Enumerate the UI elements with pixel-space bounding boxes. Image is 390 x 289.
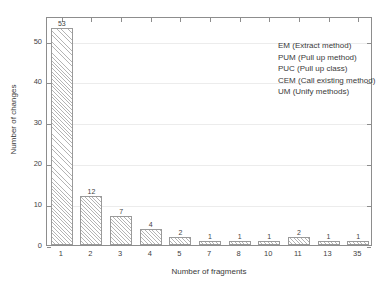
y-tick-mark [367, 165, 371, 166]
bar [258, 241, 280, 245]
bar-value-label: 12 [88, 188, 96, 195]
legend-entry: CEM (Call existing method) [278, 75, 390, 87]
bar [318, 241, 340, 245]
bar [288, 237, 310, 245]
bar [347, 241, 369, 245]
x-tick-label: 3 [118, 250, 122, 258]
x-tick-label: 5 [177, 250, 181, 258]
y-tick-label: 20 [34, 160, 42, 168]
x-tick-mark [91, 18, 92, 22]
bar-value-label: 7 [119, 208, 123, 215]
legend: EM (Extract method)PUM (Pull up method)P… [278, 40, 390, 98]
x-tick-label: 2 [88, 250, 92, 258]
x-axis-tick-labels: 123457810111335 [46, 250, 372, 262]
legend-entry: PUC (Pull up class) [278, 63, 390, 75]
plot-area: 5312742111211 EM (Extract method)PUM (Pu… [46, 17, 372, 246]
x-tick-mark [240, 18, 241, 22]
x-tick-label: 4 [148, 250, 152, 258]
bar-value-label: 2 [297, 229, 301, 236]
y-tick-label: 50 [34, 38, 42, 46]
bar [51, 28, 73, 245]
bar-value-label: 4 [149, 221, 153, 228]
bar-value-label: 2 [178, 229, 182, 236]
bar-value-label: 1 [327, 233, 331, 240]
x-tick-label: 13 [323, 250, 331, 258]
legend-entry: EM (Extract method) [278, 40, 390, 52]
y-tick-label: 30 [34, 120, 42, 128]
legend-entry: PUM (Pull up method) [278, 52, 390, 64]
y-tick-mark [367, 206, 371, 207]
y-tick-mark [367, 124, 371, 125]
y-tick-mark [367, 247, 371, 248]
gridline [47, 165, 371, 166]
y-tick-mark [47, 247, 51, 248]
bar-value-label: 1 [238, 233, 242, 240]
x-tick-mark [358, 18, 359, 22]
bar-chart-figure: Number of changes 01020304050 5312742111… [0, 0, 390, 289]
y-tick-label: 40 [34, 79, 42, 87]
bar [140, 229, 162, 245]
x-tick-mark [269, 18, 270, 22]
bar [229, 241, 251, 245]
x-tick-label: 1 [59, 250, 63, 258]
y-tick-label: 0 [38, 242, 42, 250]
bar-value-label: 53 [58, 20, 66, 27]
y-tick-label: 10 [34, 201, 42, 209]
bar [199, 241, 221, 245]
bar-value-label: 1 [208, 233, 212, 240]
x-tick-mark [121, 18, 122, 22]
x-tick-label: 10 [264, 250, 272, 258]
gridline [47, 124, 371, 125]
x-tick-mark [151, 18, 152, 22]
bar-value-label: 1 [267, 233, 271, 240]
x-tick-mark [210, 18, 211, 22]
y-axis-title: Number of changes [9, 60, 18, 180]
bar-value-label: 1 [356, 233, 360, 240]
x-axis-title: Number of fragments [46, 267, 372, 276]
bar [110, 216, 132, 245]
bar [80, 196, 102, 245]
x-tick-label: 11 [294, 250, 302, 258]
x-tick-label: 8 [237, 250, 241, 258]
x-tick-mark [180, 18, 181, 22]
x-tick-mark [329, 18, 330, 22]
y-axis-tick-labels: 01020304050 [24, 17, 42, 246]
bar [169, 237, 191, 245]
x-tick-mark [299, 18, 300, 22]
x-tick-label: 35 [353, 250, 361, 258]
legend-entry: UM (Unify methods) [278, 86, 390, 98]
x-tick-label: 7 [207, 250, 211, 258]
